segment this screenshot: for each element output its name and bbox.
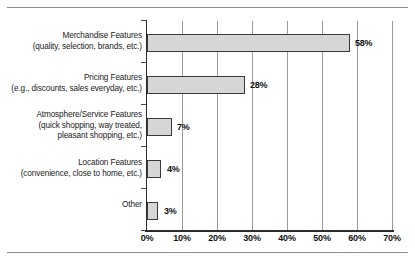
x-axis-tick-label-70: 70% xyxy=(383,233,400,243)
gridline-40 xyxy=(287,21,288,230)
x-axis-tick-label-30: 30% xyxy=(243,233,260,243)
x-axis-tick-label-60: 60% xyxy=(348,233,365,243)
gridline-60 xyxy=(357,21,358,230)
plot-area: 58% 28% 7% 4% 3% xyxy=(147,21,392,230)
y-axis-tick xyxy=(141,20,146,21)
gridline-70 xyxy=(392,21,393,230)
y-axis-tick xyxy=(141,188,146,189)
bar-value-merchandise-features: 58% xyxy=(355,38,372,48)
category-label-merchandise-features: Merchandise Features (quality, selection… xyxy=(2,31,142,52)
bar-value-pricing-features: 28% xyxy=(250,80,267,90)
x-axis-tick-label-20: 20% xyxy=(208,233,225,243)
y-axis-tick xyxy=(141,62,146,63)
y-axis-tick xyxy=(141,104,146,105)
category-label-pricing-features: Pricing Features (e.g., discounts, sales… xyxy=(2,73,142,94)
x-axis-tick-label-10: 10% xyxy=(173,233,190,243)
x-axis-line xyxy=(145,230,394,232)
bar-value-location-features: 4% xyxy=(167,164,180,174)
bar-pricing-features xyxy=(147,76,245,94)
x-axis-tick-label-40: 40% xyxy=(278,233,295,243)
category-label-other: Other xyxy=(2,200,142,211)
gridline-50 xyxy=(322,21,323,230)
bar-location-features xyxy=(147,160,161,178)
gridline-20 xyxy=(217,21,218,230)
y-axis-tick xyxy=(141,146,146,147)
bar-atmosphere-service-features xyxy=(147,118,172,136)
bar-value-other: 3% xyxy=(164,206,177,216)
category-label-atmosphere-service-features: Atmosphere/Service Features (quick shopp… xyxy=(2,110,142,142)
bar-other xyxy=(147,202,158,220)
bar-merchandise-features xyxy=(147,34,350,52)
x-axis-tick-label-0: 0% xyxy=(141,233,154,243)
category-axis-labels: Merchandise Features (quality, selection… xyxy=(0,0,142,261)
bar-value-atmosphere-service-features: 7% xyxy=(177,122,190,132)
x-axis-tick-label-50: 50% xyxy=(313,233,330,243)
category-label-location-features: Location Features (convenience, close to… xyxy=(2,158,142,179)
gridline-30 xyxy=(252,21,253,230)
chart-figure: Merchandise Features (quality, selection… xyxy=(0,0,415,261)
